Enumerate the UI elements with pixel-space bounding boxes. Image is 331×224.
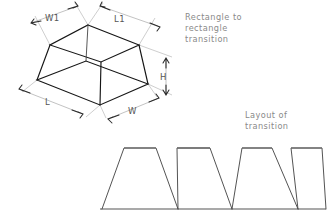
top-note-line-1: Rectangle to xyxy=(185,12,242,22)
top-note-line-3: transition xyxy=(185,34,229,44)
dim-arrow-l-end xyxy=(72,110,83,118)
bottom-note-line-1: Layout of xyxy=(245,110,288,120)
dim-arrow-h-top xyxy=(163,58,169,68)
layout-pattern xyxy=(100,148,326,209)
ext-line-w-left xyxy=(100,105,106,118)
bottom-note-line-2: transition xyxy=(245,121,289,131)
trapezoid-outline xyxy=(102,148,178,209)
dim-arrow-w-start xyxy=(108,115,119,123)
trapezoid-outline xyxy=(177,148,232,209)
top-note: Rectangle to rectangle transition xyxy=(185,12,242,44)
frustum-top-face xyxy=(50,25,139,62)
trapezoid-outline xyxy=(232,148,298,209)
layout-trapezoid xyxy=(232,148,298,209)
frustum-edge-front xyxy=(100,62,101,105)
layout-trapezoid xyxy=(177,148,232,209)
frustum-bottom-face xyxy=(37,61,148,105)
ext-line-l1-right xyxy=(139,18,155,45)
dim-label-w1: W1 xyxy=(45,13,60,23)
layout-trapezoid xyxy=(102,148,178,209)
layout-trapezoid-set xyxy=(102,148,326,209)
dim-arrow-w-end xyxy=(149,94,159,102)
dim-arrow-l-start xyxy=(19,85,30,93)
frustum-edge-back-hidden xyxy=(86,25,88,61)
trapezoid-outline xyxy=(291,148,326,209)
ext-line-l-bottom xyxy=(86,105,100,117)
ext-line-h-top xyxy=(139,45,172,57)
top-note-line-2: rectangle xyxy=(185,23,228,33)
bottom-note: Layout of transition xyxy=(245,110,289,131)
dim-label-l1: L1 xyxy=(114,14,125,24)
ext-line-l-top xyxy=(22,80,37,92)
engineering-drawing-canvas: W1 L1 L W H Rectangle to rectangle trans… xyxy=(0,0,331,224)
dim-label-w: W xyxy=(128,106,137,116)
dim-label-l: L xyxy=(45,97,50,107)
dimension-lines xyxy=(19,2,169,123)
frustum-edge-right xyxy=(139,45,148,84)
frustum-edge-left xyxy=(37,45,50,80)
layout-trapezoid xyxy=(291,148,326,209)
isometric-frustum xyxy=(37,25,148,105)
dim-label-h: H xyxy=(160,72,167,82)
